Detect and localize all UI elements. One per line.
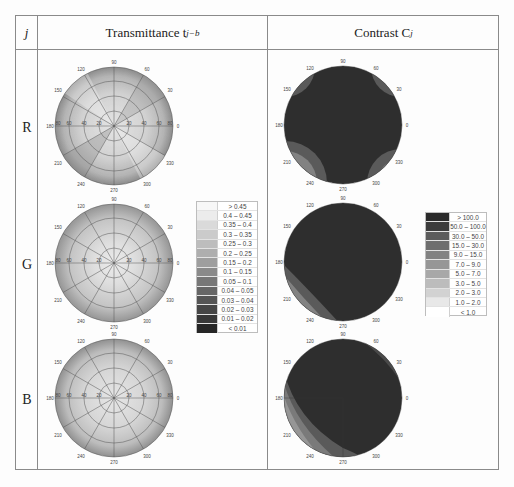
transmittance-polar-plot-g: 9060300 330300270240 210180150120 204060… <box>44 193 184 333</box>
svg-text:240: 240 <box>306 318 314 323</box>
legend-item: 0.1 – 0.15 <box>197 268 257 277</box>
svg-text:30: 30 <box>167 225 173 230</box>
legend-item: > 100.0 <box>426 213 486 222</box>
svg-text:60: 60 <box>66 258 72 263</box>
svg-text:240: 240 <box>306 181 314 186</box>
svg-text:180: 180 <box>46 261 54 266</box>
svg-text:210: 210 <box>283 433 291 438</box>
legend-item: 1.0 – 2.0 <box>426 298 486 307</box>
svg-text:330: 330 <box>166 298 174 303</box>
svg-text:300: 300 <box>143 182 151 187</box>
svg-text:20: 20 <box>126 121 132 126</box>
svg-text:60: 60 <box>156 258 162 263</box>
legend-item: < 0.01 <box>197 324 257 333</box>
svg-text:90: 90 <box>340 59 346 64</box>
header-divider <box>16 49 498 50</box>
svg-text:240: 240 <box>77 454 85 459</box>
svg-text:20: 20 <box>96 393 102 398</box>
svg-text:270: 270 <box>339 460 347 465</box>
svg-text:20: 20 <box>96 121 102 126</box>
transmittance-legend: > 0.45 0.4 – 0.45 0.35 – 0.4 0.3 – 0.35 … <box>196 201 258 333</box>
legend-item: 0.02 – 0.03 <box>197 305 257 314</box>
svg-text:120: 120 <box>306 203 314 208</box>
column-divider <box>267 16 268 469</box>
svg-text:180: 180 <box>46 124 54 129</box>
legend-item: 5.0 – 7.0 <box>426 270 486 279</box>
svg-text:60: 60 <box>144 67 150 72</box>
svg-text:0: 0 <box>406 123 409 128</box>
svg-text:240: 240 <box>77 319 85 324</box>
contrast-polar-plot-g: 9060300 330300270240 210180150120 <box>273 192 413 332</box>
svg-text:30: 30 <box>396 224 402 229</box>
row-label-r: R <box>16 120 38 136</box>
svg-text:240: 240 <box>306 454 314 459</box>
legend-item: 0.4 – 0.45 <box>197 211 257 220</box>
svg-text:60: 60 <box>144 339 150 344</box>
svg-text:150: 150 <box>54 360 62 365</box>
svg-text:150: 150 <box>283 360 291 365</box>
legend-item: 0.05 – 0.1 <box>197 277 257 286</box>
svg-text:30: 30 <box>396 360 402 365</box>
legend-item: 3.0 – 5.0 <box>426 279 486 288</box>
svg-text:20: 20 <box>96 258 102 263</box>
svg-text:150: 150 <box>283 224 291 229</box>
svg-text:90: 90 <box>111 197 117 202</box>
svg-text:40: 40 <box>81 258 87 263</box>
svg-text:60: 60 <box>144 204 150 209</box>
svg-text:30: 30 <box>167 88 173 93</box>
svg-text:120: 120 <box>77 67 85 72</box>
svg-text:90: 90 <box>111 332 117 337</box>
svg-text:210: 210 <box>54 433 62 438</box>
contrast-polar-plot-r: 9060300 330300270240 210180150120 <box>273 55 413 195</box>
svg-text:240: 240 <box>77 182 85 187</box>
svg-text:80: 80 <box>55 393 61 398</box>
contrast-polar-plot-b: 9060300 330300270240 210180150120 <box>273 328 413 468</box>
svg-text:180: 180 <box>275 260 283 265</box>
svg-text:330: 330 <box>395 433 403 438</box>
svg-text:60: 60 <box>66 121 72 126</box>
svg-text:30: 30 <box>396 87 402 92</box>
svg-text:80: 80 <box>55 258 61 263</box>
row-label-b: B <box>16 392 38 408</box>
svg-text:180: 180 <box>275 396 283 401</box>
svg-text:150: 150 <box>54 225 62 230</box>
legend-item: 0.04 – 0.05 <box>197 287 257 296</box>
header-contrast: Contrast Cj <box>268 16 499 49</box>
svg-text:40: 40 <box>141 258 147 263</box>
svg-text:20: 20 <box>126 258 132 263</box>
svg-text:0: 0 <box>177 261 180 266</box>
svg-text:150: 150 <box>54 88 62 93</box>
svg-text:80: 80 <box>55 121 61 126</box>
svg-text:300: 300 <box>143 454 151 459</box>
svg-text:210: 210 <box>54 298 62 303</box>
legend-item: 0.25 – 0.3 <box>197 240 257 249</box>
legend-item: 0.15 – 0.2 <box>197 258 257 267</box>
svg-text:40: 40 <box>141 393 147 398</box>
contrast-legend: > 100.0 50.0 – 100.0 30.0 – 50.0 15.0 – … <box>425 212 487 316</box>
transmittance-polar-plot-r: 9060300 330300270240 210180150120 204060… <box>44 56 184 196</box>
svg-text:300: 300 <box>143 319 151 324</box>
svg-text:180: 180 <box>46 396 54 401</box>
svg-text:60: 60 <box>373 339 379 344</box>
svg-text:150: 150 <box>283 87 291 92</box>
svg-text:210: 210 <box>283 160 291 165</box>
legend-item: 0.3 – 0.35 <box>197 230 257 239</box>
svg-text:30: 30 <box>167 360 173 365</box>
svg-text:120: 120 <box>306 66 314 71</box>
legend-item: 0.01 – 0.02 <box>197 315 257 324</box>
svg-text:0: 0 <box>177 124 180 129</box>
svg-text:330: 330 <box>166 161 174 166</box>
svg-text:40: 40 <box>81 393 87 398</box>
svg-text:210: 210 <box>283 297 291 302</box>
legend-item: 50.0 – 100.0 <box>426 222 486 231</box>
svg-text:0: 0 <box>177 396 180 401</box>
svg-text:40: 40 <box>81 121 87 126</box>
svg-text:330: 330 <box>395 297 403 302</box>
svg-text:120: 120 <box>77 204 85 209</box>
header-transmittance: Transmittance tj−b <box>38 16 267 49</box>
svg-text:0: 0 <box>406 396 409 401</box>
svg-text:300: 300 <box>372 181 380 186</box>
legend-item: 30.0 – 50.0 <box>426 232 486 241</box>
legend-item: < 1.0 <box>426 307 486 316</box>
transmittance-polar-plot-b: 9060300 330300270240 210180150120 204060… <box>44 328 184 468</box>
